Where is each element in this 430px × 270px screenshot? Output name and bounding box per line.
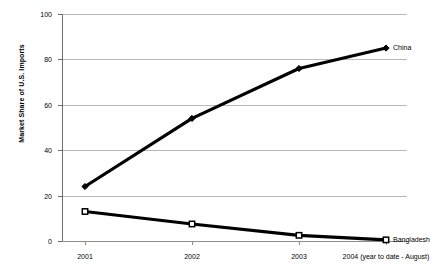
series-line-bangladesh — [85, 211, 386, 239]
series-label-bangladesh: Bangladesh — [393, 236, 430, 243]
series-label-china: China — [393, 44, 411, 51]
data-point-bangladesh-2004 — [383, 237, 388, 242]
data-point-bangladesh-2002 — [189, 221, 194, 226]
data-point-bangladesh-2001 — [82, 209, 87, 214]
data-point-bangladesh-2003 — [296, 233, 301, 238]
data-point-china-2004 — [383, 45, 389, 51]
series-line-china — [85, 48, 386, 186]
